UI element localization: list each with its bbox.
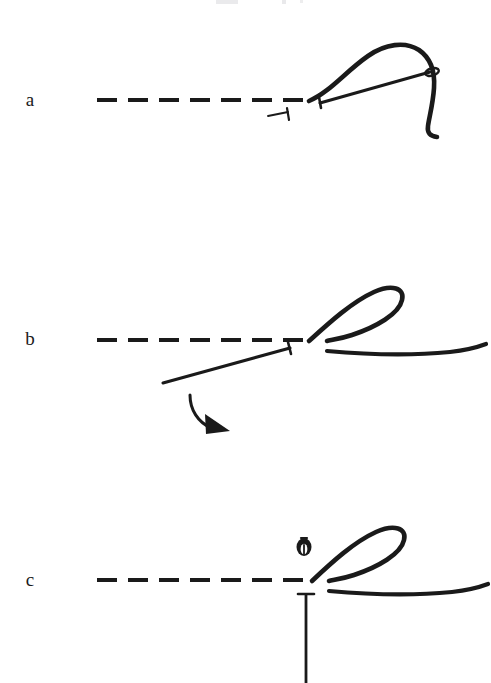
figure-root: a b bbox=[0, 0, 491, 683]
panel-b-label: b bbox=[25, 328, 35, 349]
figure-background bbox=[0, 0, 491, 683]
panel-a-label: a bbox=[26, 89, 35, 110]
figure-canvas: a b bbox=[0, 0, 491, 683]
panel-c-needle-eye-end-on bbox=[297, 538, 312, 556]
panel-c-label: c bbox=[26, 569, 34, 590]
